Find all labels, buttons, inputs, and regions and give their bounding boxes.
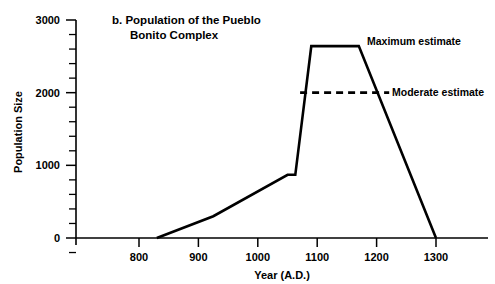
y-tick-label-0: 0	[54, 232, 60, 244]
x-tick-label-1200: 1200	[364, 251, 388, 263]
x-axis-title: Year (A.D.)	[254, 269, 310, 281]
annotation-maximum-estimate: Maximum estimate	[367, 35, 461, 47]
x-tick-label-900: 900	[189, 251, 207, 263]
chart-title-line-2: Bonito Complex	[130, 29, 219, 41]
x-tick-label-1100: 1100	[305, 251, 329, 263]
y-tick-label-3000: 3000	[36, 14, 60, 26]
population-line-chart: 3000 2000 1000 0 800 900 1000 1100 1200 …	[0, 0, 495, 284]
y-tick-label-1000: 1000	[36, 159, 60, 171]
y-axis-title: Population Size	[12, 91, 24, 173]
y-axis-major-ticks	[66, 20, 76, 238]
x-tick-label-1000: 1000	[246, 251, 270, 263]
x-axis-ticks	[139, 238, 436, 247]
x-tick-label-1300: 1300	[424, 251, 448, 263]
y-tick-label-2000: 2000	[36, 87, 60, 99]
x-tick-label-800: 800	[130, 251, 148, 263]
chart-figure: 3000 2000 1000 0 800 900 1000 1100 1200 …	[0, 0, 495, 284]
annotation-moderate-estimate: Moderate estimate	[392, 86, 484, 98]
chart-title-line-1: b. Population of the Pueblo	[112, 14, 261, 26]
series-maximum-estimate	[157, 46, 436, 238]
y-axis-minor-ticks	[69, 35, 76, 253]
